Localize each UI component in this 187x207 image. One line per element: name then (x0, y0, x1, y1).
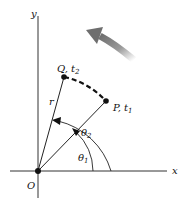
theta2-label: θ2 (81, 127, 92, 140)
radius-line-p (38, 101, 106, 171)
point-p-label: P, t1 (112, 102, 133, 115)
origin-label: O (27, 180, 35, 191)
theta1-label: θ1 (78, 152, 89, 165)
point-p (103, 98, 109, 104)
origin-point (35, 168, 41, 174)
radius-label: r (49, 96, 55, 107)
rotation-direction-arrow-icon (86, 27, 134, 60)
x-axis-label: x (172, 165, 178, 176)
dashed-arc-path (64, 77, 106, 101)
point-q (61, 74, 67, 80)
theta2-arrowhead-icon (52, 117, 61, 125)
point-q-label: Q, t2 (57, 63, 80, 76)
y-axis-label: y (30, 8, 37, 19)
polar-motion-diagram: y x O r Q, t2 P, t1 θ2 θ1 (0, 0, 187, 207)
